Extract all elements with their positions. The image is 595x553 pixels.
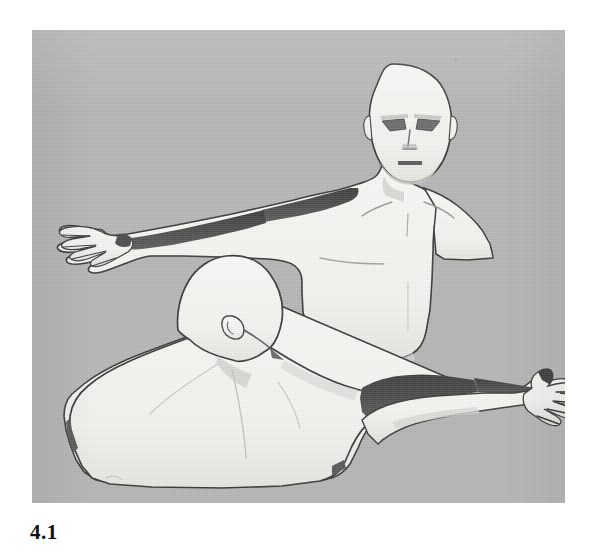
figure-plate bbox=[32, 30, 565, 503]
figure-caption: 4.1 bbox=[30, 518, 58, 546]
front-view-right-shoulder bbox=[424, 188, 493, 260]
front-view-nose-shadow bbox=[401, 144, 418, 150]
front-view-ear-right bbox=[449, 116, 457, 140]
front-view-ear-left bbox=[364, 116, 372, 140]
front-view-mouth bbox=[398, 161, 422, 165]
anatomy-illustration bbox=[32, 30, 565, 503]
